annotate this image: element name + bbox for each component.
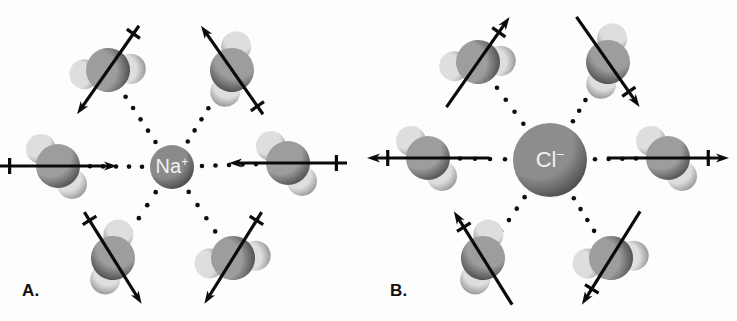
water-top-left-bond-dot [146,128,151,133]
water-top-right-dipole-crossbar [622,87,635,96]
water-top-right-bond-dot [206,106,211,111]
panel-a-sodium: Na+ A. [0,0,368,321]
water-bottom-right-bond-dot [585,218,590,223]
ion-symbol: Na [156,155,182,177]
panel-a-label: A. [22,281,39,301]
water-bottom-right-bond-dot [195,203,200,208]
central-ion-layer: Na+ [150,145,194,189]
water-bottom-left-bond-dot [145,203,150,208]
water-left-bond-dot [503,157,508,162]
water-top-right-bond-dot [583,98,588,103]
ion-charge: + [181,155,188,169]
water-bottom-left-bond [499,195,527,234]
water-top-right-bond-dot [185,139,190,144]
water-top-left-bond-dot [521,121,526,126]
water-bottom-right-bond-dot [204,216,209,221]
water-top-left-bond-dot [138,117,143,122]
water-left-bond-dot [140,164,145,169]
water-top-left-bond-dot [123,94,128,99]
water-top-left-bond [123,94,157,144]
water-top-left-bond-dot [495,85,500,90]
panel-b-label: B. [390,281,407,301]
water-bottom-left-bond-dot [137,216,142,221]
water-bottom-right-bond [186,190,217,234]
water-top-right-bond-dot [571,119,576,124]
water-bottom-left-bond-dot [153,190,158,195]
water-bottom-left-bond-dot [507,218,512,223]
water-top-right-bond-dot [192,128,197,133]
water-top-left-bond-dot [153,140,158,145]
water-top-left-bond-dot [503,97,508,102]
water-top-left-bond [495,85,526,126]
water-bottom-right-bond-dot [213,229,218,234]
water-bottom-left-bond-dot [514,206,519,211]
ion-symbol: Cl [536,147,557,172]
water-right-bond-dot [200,164,205,169]
water-top-left-bond-dot [512,109,517,114]
water-top-right-bond [185,95,217,144]
water-right-bond-dot [213,163,218,168]
water-right-bond-dot [593,157,598,162]
water-top-right-dipole-crossbar [251,102,264,111]
water-top-left-dipole-crossbar [127,29,140,38]
panel-b-chloride: Cl− B. [368,0,737,321]
ion-solvation-figure: Na+ A. Cl− B. [0,0,737,321]
panel-a-canvas: Na+ [0,0,368,321]
ion-charge: − [556,147,564,162]
panel-b-canvas: Cl− [368,0,737,321]
water-top-left-bond-dot [131,106,136,111]
water-bottom-right-bond [571,196,596,233]
water-bottom-right-bond-dot [592,229,597,234]
water-bottom-left-bond [128,190,158,234]
water-bottom-left-bond-dot [522,195,527,200]
water-bottom-right-bond-dot [578,207,583,212]
central-ion-layer: Cl− [513,123,587,197]
water-bottom-right-bond-dot [186,190,191,195]
water-top-right-bond-dot [577,108,582,113]
water-top-left-dipole-crossbar [492,28,505,37]
water-top-right-bond-dot [199,117,204,122]
water-bottom-right-bond-dot [571,196,576,201]
water-left-bond-dot [127,164,132,169]
